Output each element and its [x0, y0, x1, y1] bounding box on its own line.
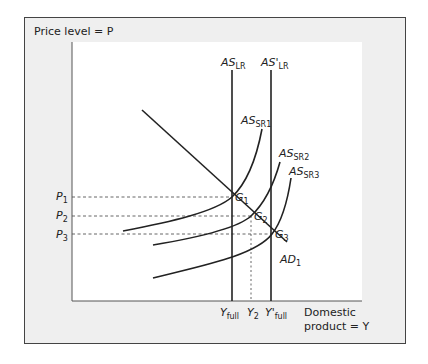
y-axis-title: Price level = P: [34, 25, 114, 38]
x-axis-title-line1: Domestic: [304, 306, 356, 319]
y2-label: Y2: [247, 306, 259, 321]
y-full-label: Yfull: [220, 306, 239, 321]
p1-label: P1: [56, 190, 68, 205]
p3-label: P3: [56, 228, 68, 243]
p2-label: P2: [56, 209, 68, 224]
y-full-prime-label: Y'full: [265, 306, 287, 321]
chart-canvas: Price level = P ASLR AS'LR ASSR1 ASSR2 A…: [0, 0, 428, 364]
x-axis-title-line2: product = Y: [304, 320, 370, 333]
